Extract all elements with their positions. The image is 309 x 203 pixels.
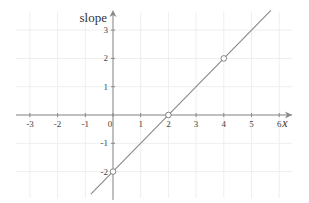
axis-labels: -3-2-10123456-2-1123slopex xyxy=(26,10,288,177)
chart: -3-2-10123456-2-1123slopex xyxy=(0,0,309,203)
x-tick-label: 3 xyxy=(194,119,199,129)
x-axis-label: x xyxy=(281,116,288,130)
x-tick-label: -1 xyxy=(82,119,90,129)
y-tick-label: 1 xyxy=(104,82,109,92)
data-point xyxy=(221,56,227,62)
y-tick-label: -1 xyxy=(101,138,109,148)
x-tick-label: -2 xyxy=(54,119,62,129)
x-tick-label: 0 xyxy=(108,119,113,129)
y-axis-label: slope xyxy=(80,10,108,25)
y-tick-label: 3 xyxy=(104,25,109,35)
data-point xyxy=(110,169,116,175)
x-tick-label: 5 xyxy=(249,119,254,129)
y-tick-label: 2 xyxy=(104,53,109,63)
data-series xyxy=(91,10,271,194)
x-tick-label: 2 xyxy=(166,119,171,129)
x-tick-label: 4 xyxy=(222,119,227,129)
grid-lines xyxy=(16,12,292,198)
x-tick-label: 1 xyxy=(138,119,143,129)
data-point xyxy=(166,112,172,118)
line-series xyxy=(91,10,271,194)
y-tick-label: -2 xyxy=(101,167,109,177)
x-tick-label: -3 xyxy=(26,119,34,129)
x-tick-label: 6 xyxy=(277,119,282,129)
